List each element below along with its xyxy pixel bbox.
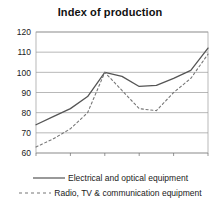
legend-label-radio: Radio, TV & communication equipment (54, 188, 201, 198)
y-axis-tick-label: 70 (22, 128, 32, 138)
y-axis-tick-label: 60 (22, 148, 32, 158)
data-series-electrical (36, 48, 208, 125)
legend-item-radio: Radio, TV & communication equipment (0, 185, 220, 200)
legend-label-electrical: Electrical and optical equipment (68, 173, 188, 183)
chart-svg: 6070809010011012019961998200020022004200… (0, 26, 220, 158)
legend-swatch-dashed-icon (18, 188, 52, 198)
legend-swatch-solid-icon (32, 173, 66, 183)
chart-title: Index of production (0, 6, 220, 18)
legend-item-electrical: Electrical and optical equipment (0, 170, 220, 185)
y-axis-tick-label: 120 (17, 27, 31, 37)
y-axis-tick-label: 90 (22, 88, 32, 98)
y-axis-tick-label: 100 (17, 68, 31, 78)
y-axis-tick-label: 110 (17, 47, 31, 57)
y-axis-tick-label: 80 (22, 108, 32, 118)
plot-area: 6070809010011012019961998200020022004200… (0, 26, 220, 158)
chart-legend: Electrical and optical equipment Radio, … (0, 170, 220, 200)
chart-container: Index of production 60708090100110120199… (0, 0, 220, 205)
